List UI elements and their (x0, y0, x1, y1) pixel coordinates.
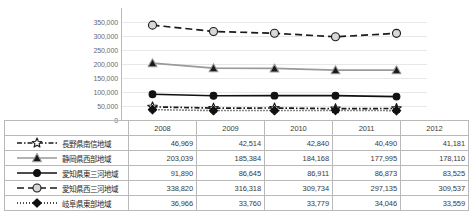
y-axis-tick-50000: 50,000 (97, 103, 118, 110)
data-cell: 42,514 (197, 136, 265, 151)
data-cell: 33,760 (197, 196, 265, 211)
y-axis-tick-300000: 300,000 (93, 33, 118, 40)
chart-figure: 050,000100,000150,000200,000250,000300,0… (0, 0, 431, 209)
legend-marker-icon (16, 152, 58, 164)
data-cell: 91,890 (129, 166, 197, 181)
data-point (149, 21, 157, 29)
legend-item-0[interactable]: 長野県南信地域 (5, 136, 129, 151)
legend-marker-icon (16, 167, 58, 179)
chart-series-layer (122, 8, 427, 120)
data-cell: 40,490 (333, 136, 401, 151)
data-cell: 42,840 (265, 136, 333, 151)
data-cell: 177,995 (333, 151, 401, 166)
data-point (271, 29, 279, 37)
series-3 (149, 21, 401, 41)
data-point (149, 91, 156, 98)
data-cell: 83,525 (401, 166, 469, 181)
data-cell: 184,168 (265, 151, 333, 166)
data-cell: 46,969 (129, 136, 197, 151)
data-point (332, 33, 340, 41)
table-row: 岐阜県東部地域36,96633,76033,77934,04633,559 (5, 196, 469, 211)
legend-marker-icon (16, 197, 58, 209)
data-cell: 33,779 (265, 196, 333, 211)
y-axis-tick-labels: 050,000100,000150,000200,000250,000300,0… (72, 8, 118, 120)
column-header-2012: 2012 (401, 121, 469, 136)
data-cell: 203,039 (129, 151, 197, 166)
y-axis-tick-200000: 200,000 (93, 61, 118, 68)
data-cell: 86,645 (197, 166, 265, 181)
data-cell: 338,820 (129, 181, 197, 196)
legend-item-4[interactable]: 岐阜県東部地域 (5, 196, 129, 211)
y-axis-tick-350000: 350,000 (93, 19, 118, 26)
table-row: 静岡県西部地域203,039185,384184,168177,995178,1… (5, 151, 469, 166)
legend-item-3[interactable]: 愛知県西三河地域 (5, 181, 129, 196)
data-cell: 178,110 (401, 151, 469, 166)
y-axis-tick-250000: 250,000 (93, 47, 118, 54)
legend-label: 愛知県東三河地域 (62, 168, 118, 179)
data-point (393, 93, 400, 100)
column-header-2009: 2009 (197, 121, 265, 136)
legend-label: 愛知県西三河地域 (62, 183, 118, 194)
data-point (393, 29, 401, 37)
plot-container: 050,000100,000150,000200,000250,000300,0… (0, 0, 431, 126)
data-cell: 41,181 (401, 136, 469, 151)
table-corner-cell (5, 121, 129, 136)
data-cell: 86,911 (265, 166, 333, 181)
data-cell: 33,559 (401, 196, 469, 211)
legend-marker-icon (16, 137, 58, 149)
table-header-row: 20082009201020112012 (5, 121, 469, 136)
column-header-2008: 2008 (129, 121, 197, 136)
table-row: 愛知県西三河地域338,820316,318309,734297,135309,… (5, 181, 469, 196)
legend-marker-icon (16, 182, 58, 194)
data-cell: 86,873 (333, 166, 401, 181)
column-header-2011: 2011 (333, 121, 401, 136)
data-point (271, 92, 278, 99)
data-cell: 185,384 (197, 151, 265, 166)
legend-label: 静岡県西部地域 (62, 153, 111, 164)
y-axis-tick-100000: 100,000 (93, 89, 118, 96)
data-cell: 316,318 (197, 181, 265, 196)
data-cell: 36,966 (129, 196, 197, 211)
table-row: 愛知県東三河地域91,89086,64586,91186,87383,525 (5, 166, 469, 181)
series-2 (149, 91, 400, 100)
legend-item-1[interactable]: 静岡県西部地域 (5, 151, 129, 166)
column-header-2010: 2010 (265, 121, 333, 136)
plot-area (121, 8, 426, 120)
data-cell: 297,135 (333, 181, 401, 196)
data-cell: 309,734 (265, 181, 333, 196)
legend-label: 長野県南信地域 (62, 138, 111, 149)
data-cell: 34,046 (333, 196, 401, 211)
data-cell: 309,537 (401, 181, 469, 196)
data-point (210, 27, 218, 35)
chart-data-table: 20082009201020112012長野県南信地域46,96942,5144… (4, 120, 469, 211)
legend-label: 岐阜県東部地域 (62, 198, 111, 209)
data-point (210, 92, 217, 99)
legend-item-2[interactable]: 愛知県東三河地域 (5, 166, 129, 181)
data-point (332, 92, 339, 99)
table-row: 長野県南信地域46,96942,51442,84040,49041,181 (5, 136, 469, 151)
y-axis-tick-150000: 150,000 (93, 75, 118, 82)
series-1 (148, 59, 401, 74)
